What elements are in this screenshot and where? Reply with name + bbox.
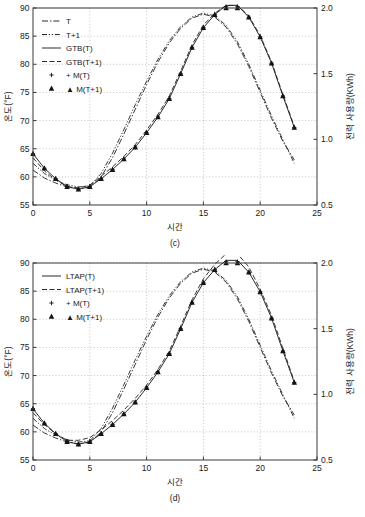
xtick-label: 20: [255, 463, 265, 473]
xtick-label: 0: [31, 463, 36, 473]
axis-titles: 시간온도(°F)전력 사용량(KWh)(c): [3, 73, 355, 248]
xtick-label: 10: [142, 463, 152, 473]
xtick-label: 5: [87, 463, 92, 473]
ytick-label-right: 1.0: [321, 389, 333, 399]
ytick-label-right: 0.5: [321, 455, 333, 465]
figure-container: 051015202555606570758085900.51.01.52.0시간…: [0, 0, 365, 517]
panel-label: (d): [170, 493, 181, 503]
x-axis-title: 시간: [167, 222, 183, 232]
ytick-label-left: 75: [20, 342, 30, 352]
legend: LTAP(T)LTAP(T+1)+ M(T)▲ M(T+1): [42, 272, 104, 322]
xtick-label: 0: [31, 208, 36, 218]
xtick-label: 10: [142, 208, 152, 218]
x-axis-title: 시간: [167, 477, 183, 487]
panel-label: (c): [170, 238, 180, 248]
panel-c: 051015202555606570758085900.51.01.52.0시간…: [0, 0, 365, 250]
ytick-label-left: 65: [20, 144, 30, 154]
ytick-label-right: 1.0: [321, 134, 333, 144]
legend-label: GTB(T+1): [66, 58, 102, 67]
ytick-label-left: 85: [20, 286, 30, 296]
ytick-label-left: 85: [20, 31, 30, 41]
y-axis-title-right: 전력 사용량(KWh): [345, 328, 355, 395]
ytick-label-left: 75: [20, 87, 30, 97]
ytick-label-left: 90: [20, 3, 30, 13]
ytick-label-left: 80: [20, 59, 30, 69]
legend-label: + M(T): [66, 71, 90, 80]
y-axis-title-left: 온도(°F): [3, 346, 13, 376]
ytick-label-left: 60: [20, 427, 30, 437]
y-axis-title-right: 전력 사용량(KWh): [345, 73, 355, 140]
legend-label: + M(T): [66, 299, 90, 308]
ytick-label-left: 55: [20, 455, 30, 465]
axis-titles: 시간온도(°F)전력 사용량(KWh)(d): [3, 328, 355, 503]
ytick-label-left: 70: [20, 371, 30, 381]
ytick-label-left: 65: [20, 399, 30, 409]
ytick-label-right: 1.5: [321, 324, 333, 334]
ytick-label-right: 2.0: [321, 258, 333, 268]
chart-c: 051015202555606570758085900.51.01.52.0시간…: [0, 0, 365, 250]
legend-label: ▲ M(T+1): [66, 313, 102, 322]
line-T: [33, 269, 294, 443]
ytick-label-left: 80: [20, 314, 30, 324]
line-T: [33, 14, 294, 188]
legend-label: GTB(T): [66, 44, 93, 53]
legend-marker-triangle: [49, 314, 55, 319]
legend-marker-triangle: [49, 86, 55, 91]
legend-label: LTAP(T): [66, 272, 95, 281]
ytick-label-right: 1.5: [321, 69, 333, 79]
legend-label: ▲ M(T+1): [66, 85, 102, 94]
ytick-label-right: 0.5: [321, 200, 333, 210]
y-axis-title-left: 온도(°F): [3, 91, 13, 121]
series-group: [30, 255, 297, 447]
ytick-label-right: 2.0: [321, 3, 333, 13]
ytick-label-left: 70: [20, 116, 30, 126]
ytick-label-left: 90: [20, 258, 30, 268]
legend: TT+1GTB(T)GTB(T+1)+ M(T)▲ M(T+1): [42, 17, 102, 94]
legend-label: T: [66, 17, 71, 26]
xtick-label: 15: [199, 208, 209, 218]
chart-d: 051015202555606570758085900.51.01.52.0시간…: [0, 255, 365, 505]
xtick-label: 5: [87, 208, 92, 218]
xtick-label: 15: [199, 463, 209, 473]
ytick-label-left: 60: [20, 172, 30, 182]
panel-d: 051015202555606570758085900.51.01.52.0시간…: [0, 255, 365, 505]
ytick-label-left: 55: [20, 200, 30, 210]
xtick-label: 20: [255, 208, 265, 218]
legend-label: T+1: [66, 31, 81, 40]
legend-label: LTAP(T+1): [66, 286, 104, 295]
